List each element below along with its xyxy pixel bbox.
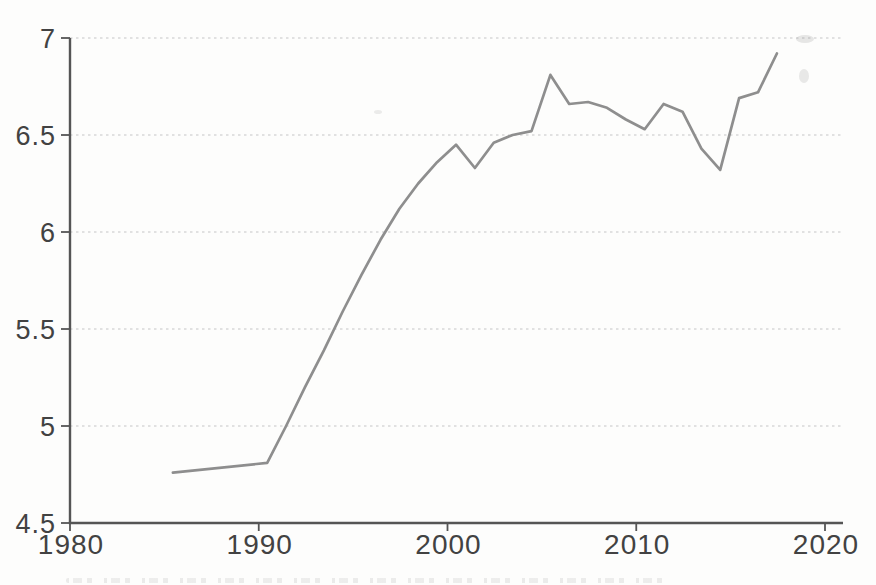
cut-off-caption-remnant bbox=[66, 578, 666, 583]
gridlines bbox=[70, 38, 843, 426]
scan-smudge-1 bbox=[796, 35, 814, 43]
tick-labels: 4.555.566.5719801990200020102020 bbox=[15, 24, 859, 561]
x-tick-label-2010: 2010 bbox=[604, 529, 670, 560]
scan-smudge-2 bbox=[799, 69, 809, 83]
scan-smudges bbox=[374, 35, 814, 114]
y-tick-label-6.5: 6.5 bbox=[15, 121, 56, 151]
data-line-series-1 bbox=[173, 54, 777, 473]
line-chart: 4.555.566.5719801990200020102020 bbox=[0, 0, 876, 585]
x-tick-label-1980: 1980 bbox=[38, 529, 104, 560]
scanned-page: 4.555.566.5719801990200020102020 bbox=[0, 0, 876, 585]
x-tick-label-1990: 1990 bbox=[227, 529, 293, 560]
y-tick-label-7: 7 bbox=[40, 24, 56, 54]
y-tick-label-5: 5 bbox=[40, 412, 56, 442]
x-tick-label-2020: 2020 bbox=[793, 529, 859, 560]
y-tick-label-6: 6 bbox=[40, 218, 56, 248]
axes bbox=[61, 38, 843, 531]
y-tick-label-5.5: 5.5 bbox=[15, 315, 56, 345]
x-tick-label-2000: 2000 bbox=[415, 529, 481, 560]
scan-smudge-3 bbox=[374, 110, 382, 114]
data-series bbox=[173, 54, 777, 473]
